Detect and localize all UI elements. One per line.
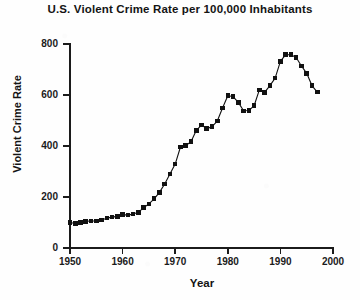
y-tick-label-800: 800 — [14, 39, 58, 49]
data-point — [157, 190, 162, 195]
data-point — [315, 90, 320, 95]
data-point — [162, 182, 167, 187]
data-point — [178, 145, 183, 150]
data-point — [126, 213, 131, 218]
x-axis-line — [69, 247, 334, 249]
data-point — [110, 215, 115, 220]
y-tick-400 — [63, 145, 69, 147]
data-point — [273, 76, 278, 81]
data-point — [252, 103, 257, 108]
x-axis-title: Year — [70, 277, 334, 289]
y-axis-title: Violent Crime Rate — [11, 54, 23, 194]
data-point — [278, 59, 283, 64]
data-point — [78, 220, 83, 225]
data-point — [94, 219, 99, 224]
x-tick-1970 — [174, 248, 176, 254]
data-point — [141, 205, 146, 210]
data-point — [83, 219, 88, 224]
data-point — [105, 216, 110, 221]
data-point — [136, 210, 141, 215]
data-point — [204, 126, 209, 131]
y-tick-600 — [63, 94, 69, 96]
x-tick-label-1970: 1970 — [152, 256, 198, 267]
data-point — [147, 202, 152, 207]
chart-title: U.S. Violent Crime Rate per 100,000 Inha… — [0, 3, 360, 15]
x-tick-label-1960: 1960 — [100, 256, 146, 267]
y-tick-label-0: 0 — [14, 243, 58, 253]
data-point — [68, 220, 73, 225]
data-point — [183, 143, 188, 148]
data-point — [199, 123, 204, 128]
data-point — [241, 109, 246, 114]
x-tick-1980 — [227, 248, 229, 254]
data-point — [294, 55, 299, 60]
x-tick-label-1950: 1950 — [47, 256, 93, 267]
data-point — [247, 108, 252, 113]
data-point — [210, 124, 215, 129]
x-tick-label-1980: 1980 — [205, 256, 251, 267]
x-tick-2000 — [332, 248, 334, 254]
data-point — [99, 218, 104, 223]
data-point — [115, 214, 120, 219]
data-point — [173, 162, 178, 167]
data-point — [236, 100, 241, 105]
x-tick-1950 — [69, 248, 71, 254]
y-axis-line — [69, 43, 71, 249]
data-point — [73, 221, 78, 226]
chart-screenshot: U.S. Violent Crime Rate per 100,000 Inha… — [0, 0, 360, 300]
data-point — [220, 106, 225, 111]
data-point — [194, 128, 199, 133]
x-tick-1960 — [122, 248, 124, 254]
data-point — [257, 88, 262, 93]
data-point — [283, 52, 288, 57]
data-point — [131, 212, 136, 217]
data-point — [262, 90, 267, 95]
data-point — [304, 71, 309, 76]
x-tick-1990 — [280, 248, 282, 254]
data-point — [289, 52, 294, 57]
data-point — [299, 64, 304, 69]
data-point — [226, 93, 231, 98]
data-point — [215, 119, 220, 124]
data-point — [310, 83, 315, 88]
data-point — [168, 172, 173, 177]
data-point — [231, 94, 236, 99]
y-tick-0 — [63, 247, 69, 249]
y-tick-200 — [63, 196, 69, 198]
y-tick-800 — [63, 43, 69, 45]
data-point — [152, 196, 157, 201]
data-point — [268, 83, 273, 88]
data-point — [89, 219, 94, 224]
data-point — [189, 139, 194, 144]
data-point — [120, 212, 125, 217]
x-tick-label-1990: 1990 — [257, 256, 303, 267]
x-tick-label-2000: 2000 — [310, 256, 356, 267]
